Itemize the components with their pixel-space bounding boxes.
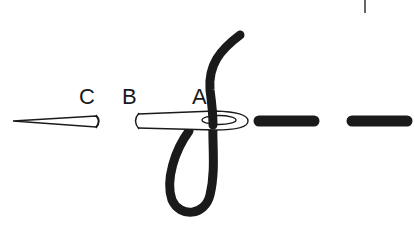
stitch-diagram: C B A xyxy=(0,0,415,243)
thread-loop xyxy=(170,121,214,212)
label-b: B xyxy=(122,84,137,109)
needle-tip xyxy=(13,115,99,128)
needle-shaft xyxy=(136,111,249,130)
label-c: C xyxy=(79,84,95,109)
label-a: A xyxy=(192,84,207,109)
